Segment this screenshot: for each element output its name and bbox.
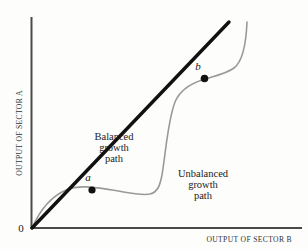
y-axis-title: OUTPUT OF SECTOR A: [15, 90, 24, 176]
point-a-marker: [88, 186, 95, 193]
point-a-label: a: [85, 171, 91, 183]
point-b-label: b: [195, 60, 201, 72]
unbalanced-annotation-line-2: growth: [188, 179, 218, 190]
balanced-annotation-line-2: growth: [99, 142, 129, 153]
point-b-marker: [201, 75, 209, 83]
x-axis-title: OUTPUT OF SECTOR B: [206, 235, 292, 244]
economics-diagram-figure: a b 0 Balanced growth path Unbalanced gr…: [0, 0, 308, 249]
growth-path-chart: a b 0 Balanced growth path Unbalanced gr…: [0, 0, 308, 249]
unbalanced-annotation-line-1: Unbalanced: [178, 168, 229, 179]
unbalanced-growth-annotation: Unbalanced growth path: [178, 168, 229, 201]
balanced-annotation-line-3: path: [105, 153, 124, 164]
balanced-annotation-line-1: Balanced: [94, 131, 134, 142]
origin-label: 0: [18, 222, 24, 234]
unbalanced-annotation-line-3: path: [194, 190, 213, 201]
balanced-growth-annotation: Balanced growth path: [94, 131, 134, 164]
unbalanced-growth-curve: [32, 22, 247, 228]
